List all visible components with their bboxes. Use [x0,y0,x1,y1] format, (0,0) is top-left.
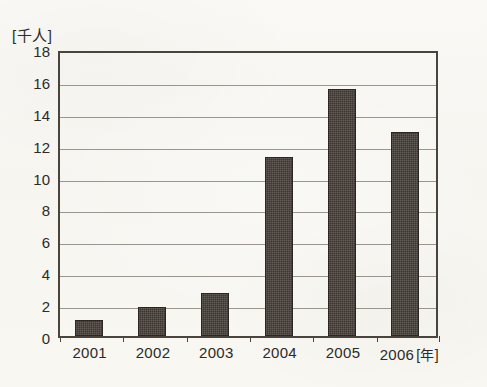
bar [265,157,293,336]
x-axis-unit-label: [年] [416,347,439,363]
x-axis-tick-label-text: 2004 [262,344,297,361]
x-axis-tick-label: 2002 [121,344,184,361]
y-axis-tick-labels: 024681012141618 [0,0,50,387]
bar [328,89,356,336]
x-axis-tick-label-text: 2001 [72,344,107,361]
y-axis-tick-label: 8 [0,202,50,219]
y-axis-tick-label: 10 [0,170,50,187]
gridline [60,308,436,309]
x-axis-tick-label-text: 2003 [199,344,234,361]
gridline [60,276,436,277]
x-axis-tick [187,336,188,342]
x-axis-tick-label-text: 2006 [380,346,415,363]
y-axis-tick-label: 0 [0,330,50,347]
y-axis-tick-label: 4 [0,266,50,283]
plot-area [58,51,438,338]
x-axis-tick [377,336,378,342]
x-axis-tick [60,336,61,342]
x-axis-tick-label-text: 2002 [136,344,171,361]
x-axis-tick-label: 2006[年] [361,344,458,364]
x-axis-tick [313,336,314,342]
x-axis-tick [439,336,440,342]
gridline [60,181,436,182]
gridline [60,244,436,245]
gridline [60,212,436,213]
x-axis-tick-label: 2001 [58,344,121,361]
y-axis-tick-label: 2 [0,298,50,315]
x-axis-tick-labels: 200120022003200420052006[年] [58,344,438,368]
bar [138,307,166,336]
y-axis-tick-label: 6 [0,234,50,251]
y-axis-tick-label: 14 [0,106,50,123]
x-axis-tick [123,336,124,342]
gridline [60,117,436,118]
gridline [60,149,436,150]
y-axis-tick-label: 16 [0,74,50,91]
x-axis-tick-label: 2004 [248,344,311,361]
y-axis-tick-label: 12 [0,138,50,155]
x-axis-tick-label-text: 2005 [326,344,361,361]
y-axis-tick-label: 18 [0,43,50,60]
bar [201,293,229,336]
bar [391,132,419,336]
x-axis-tick-label: 2003 [185,344,248,361]
gridline [60,85,436,86]
chart-page: [千人] 024681012141618 2001200220032004200… [0,0,487,387]
bar [75,320,103,336]
x-axis-tick [250,336,251,342]
